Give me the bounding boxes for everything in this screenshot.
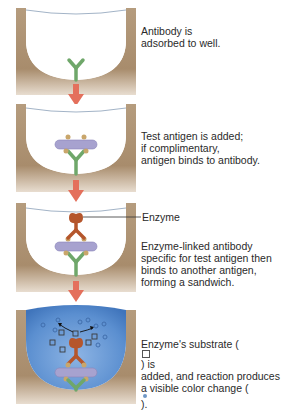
caption-line: if complimentary,	[141, 142, 260, 154]
enzyme-label: Enzyme	[142, 211, 180, 223]
caption-line: binds to another antigen,	[141, 264, 272, 276]
caption-line: adsorbed to well.	[141, 37, 220, 49]
caption-line: added, and reaction produces	[141, 370, 280, 382]
caption-line: specific for test antigen then	[141, 252, 272, 264]
caption-text: ).	[141, 398, 280, 410]
step-2-caption: Test antigen is added; if complimentary,…	[141, 130, 260, 166]
caption-line: Enzyme-linked antibody	[141, 240, 272, 252]
well-2	[16, 104, 136, 192]
well-3	[16, 203, 141, 292]
caption-text: Enzyme's substrate (	[141, 338, 280, 350]
caption-text: a visible color change (	[141, 382, 280, 394]
caption-text: ) is	[141, 358, 280, 370]
step-3-caption: Enzyme-linked antibody specific for test…	[141, 240, 272, 288]
enzyme-callout-label: Enzyme	[142, 211, 180, 223]
caption-line: Test antigen is added;	[141, 130, 260, 142]
caption-line: antigen binds to antibody.	[141, 154, 260, 166]
caption-line: Antibody is	[141, 25, 220, 37]
caption-line: a visible color change ().	[141, 382, 280, 410]
caption-line: forming a sandwich.	[141, 276, 272, 288]
square-substrate-icon	[142, 350, 150, 358]
caption-line: Enzyme's substrate () is	[141, 338, 280, 370]
well-4	[16, 305, 136, 404]
well-1	[16, 8, 136, 95]
enzyme-icon	[69, 213, 83, 223]
step-1-caption: Antibody is adsorbed to well.	[141, 25, 220, 49]
step-4-caption: Enzyme's substrate () is added, and reac…	[141, 338, 280, 410]
